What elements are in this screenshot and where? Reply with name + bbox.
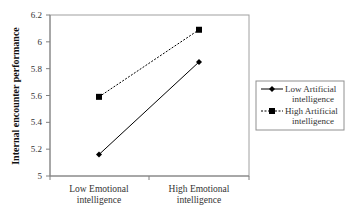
y-tick-label: 5: [38, 171, 43, 181]
square-marker-icon: [196, 27, 202, 33]
y-tick-label: 5.8: [31, 64, 43, 74]
legend-label: Low Artificialintelligence: [285, 84, 337, 104]
x-category-label: High Emotionalintelligence: [169, 184, 230, 205]
legend-label: High Artificialintelligence: [285, 106, 338, 126]
y-tick-label: 5.4: [31, 117, 43, 127]
x-axis-ticks: Low EmotionalintelligenceHigh Emotionali…: [50, 176, 249, 205]
y-tick-label: 5.6: [31, 91, 43, 101]
plot-area: [50, 15, 249, 176]
square-marker-icon: [96, 94, 102, 100]
square-legend-marker-icon: [269, 108, 275, 114]
legend: Low ArtificialintelligenceHigh Artificia…: [256, 81, 344, 130]
y-tick-label: 6: [38, 37, 43, 47]
y-tick-label: 5.2: [31, 144, 42, 154]
interaction-line-chart: 55.25.45.65.866.2 Low Emotionalintellige…: [0, 0, 359, 211]
x-category-label: Low Emotionalintelligence: [69, 184, 129, 205]
y-axis-ticks: 55.25.45.65.866.2: [31, 10, 50, 181]
y-axis-title: Internal encounter performance: [10, 27, 21, 165]
y-tick-label: 6.2: [31, 10, 42, 20]
